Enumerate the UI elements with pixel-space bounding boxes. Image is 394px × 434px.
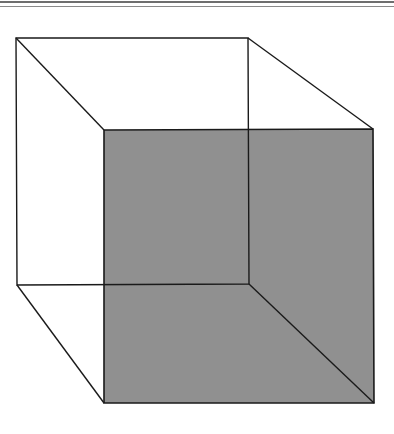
edge-top-left [16, 38, 104, 130]
edge-bottom-left [17, 285, 104, 403]
necker-cube-diagram [0, 0, 394, 434]
front-face [104, 129, 374, 403]
edge-top-right [248, 38, 373, 129]
